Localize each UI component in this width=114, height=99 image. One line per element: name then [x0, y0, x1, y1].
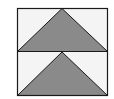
stacked-triangles-diagram — [0, 0, 114, 99]
